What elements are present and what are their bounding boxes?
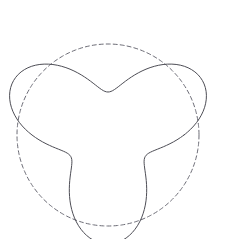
plot-svg bbox=[0, 0, 235, 239]
figure-canvas bbox=[0, 0, 235, 239]
plot-background bbox=[0, 0, 235, 239]
